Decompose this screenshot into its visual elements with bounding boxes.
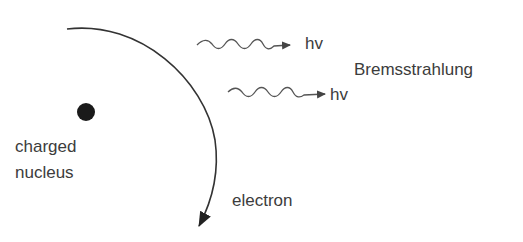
photon-label-2: hv [330,85,348,105]
photon-wave-2 [228,88,325,97]
process-label: Bremsstrahlung [354,60,473,80]
photon-label-1: hv [305,34,323,54]
electron-label: electron [232,191,292,211]
nucleus-dot [77,103,95,121]
nucleus-label-line2: nucleus [15,163,74,183]
electron-trajectory-arrow [67,28,216,226]
photon-wave-1 [197,40,290,49]
nucleus-label-line1: charged [15,137,76,157]
